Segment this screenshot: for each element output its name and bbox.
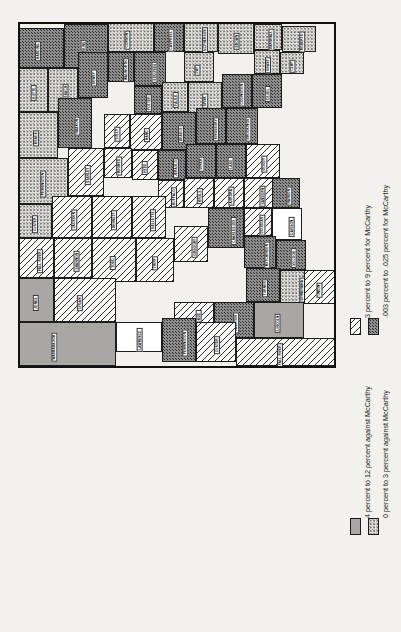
- county-custer2: [196, 322, 236, 362]
- county-walworth: [108, 52, 134, 82]
- county-fall-river2: [236, 338, 336, 366]
- county-pennington2: [162, 318, 196, 362]
- county-gregory: [174, 226, 208, 262]
- county-dewey: [78, 52, 108, 98]
- county-potter: [134, 86, 162, 114]
- county-brule: [184, 178, 214, 208]
- county-miner: [186, 144, 216, 178]
- legend-label-for-003-to-025: .003 percent to .025 percent for McCarth…: [382, 185, 389, 318]
- county-brookings: [226, 108, 258, 144]
- county-map: HARDINGPERKINSCORSONCAMPBELLMCPHERSONBRO…: [18, 22, 336, 610]
- county-stanley: [68, 148, 104, 196]
- state-border-segment: [18, 366, 336, 368]
- county-tripp: [136, 238, 174, 282]
- map-legend: 3 percent to 9 percent for McCarthy.003 …: [340, 150, 398, 550]
- county-codington: [222, 74, 252, 108]
- county-lyman: [54, 278, 116, 322]
- county-faulk: [162, 82, 188, 112]
- county-todd: [92, 238, 136, 282]
- county-deuel: [252, 74, 282, 108]
- county-jackson: [52, 196, 92, 238]
- county-meade: [18, 112, 58, 158]
- county-edmunds: [134, 52, 166, 86]
- county-shannon: [54, 238, 92, 278]
- county-sanborn: [244, 178, 274, 208]
- county-davison: [272, 208, 302, 240]
- county-union: [304, 270, 336, 304]
- map-figure: HARDINGPERKINSCORSONCAMPBELLMCPHERSONBRO…: [0, 0, 401, 632]
- county-harding: [18, 28, 64, 68]
- county-sully: [104, 114, 130, 148]
- county-mccook: [276, 240, 306, 270]
- county-bennett: [92, 196, 132, 238]
- county-moody: [246, 144, 280, 178]
- county-haakon: [58, 98, 92, 148]
- county-hyde: [132, 150, 158, 180]
- county-day: [184, 52, 214, 82]
- legend-label-for-3-to-9: 3 percent to 9 percent for McCarthy: [364, 205, 371, 318]
- county-fall-river: [18, 238, 54, 278]
- county-turner: [246, 268, 280, 302]
- county-douglas: [244, 208, 272, 236]
- state-border-segment: [334, 22, 336, 368]
- county-hughes: [104, 148, 132, 178]
- state-border-segment: [18, 22, 336, 24]
- legend-label-against-4-to-12: 4 percent to 12 percent against McCarthy: [364, 386, 371, 518]
- county-brown: [218, 22, 254, 54]
- legend-label-against-0-to-3: 0 percent to 3 percent against McCarthy: [382, 390, 389, 518]
- legend-swatch-for-3-to-9: [350, 318, 361, 335]
- county-hand: [130, 114, 162, 150]
- county-washabaugh: [18, 322, 116, 366]
- county-marshall: [254, 24, 282, 50]
- county-custer: [18, 204, 52, 238]
- legend-swatch-for-003-to-025: [368, 318, 379, 335]
- county-grant: [254, 50, 280, 74]
- county-lake: [216, 144, 246, 178]
- county-mcpherson: [184, 22, 218, 52]
- legend-swatch-against-4-to-12: [350, 518, 361, 535]
- county-hutchinson: [244, 236, 276, 268]
- county-mellette: [132, 196, 166, 238]
- county-roberts: [282, 26, 316, 52]
- county-hanson: [272, 178, 300, 208]
- county-clay: [280, 52, 304, 74]
- county-kingsbury: [196, 108, 226, 144]
- county-jerauld: [158, 150, 186, 180]
- county-butte: [18, 68, 48, 112]
- county-aurora: [214, 178, 244, 208]
- county-campbell: [154, 22, 184, 52]
- county-corson: [108, 22, 154, 52]
- county-lawrence: [116, 322, 162, 352]
- legend-swatch-against-0-to-3: [368, 518, 379, 535]
- county-lincoln: [254, 302, 304, 338]
- county-jones: [18, 278, 54, 322]
- county-charles-mix: [208, 208, 244, 248]
- state-border-segment: [18, 22, 20, 368]
